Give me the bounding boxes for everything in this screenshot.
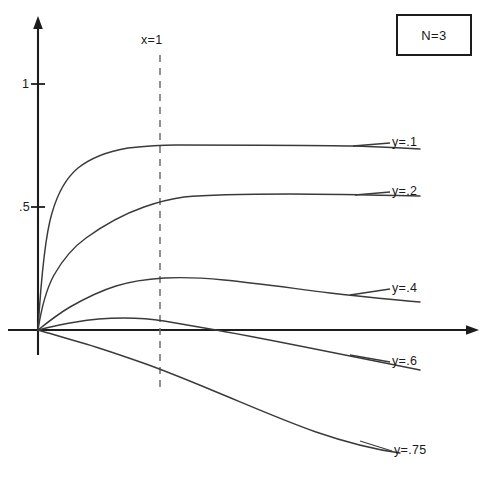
leader-y-0-1 <box>353 143 390 146</box>
x-equals-1-label: x=1 <box>141 33 162 47</box>
curve-label-y-0-2: y=.2 <box>392 184 417 198</box>
curve-label-y-0-6: y=.6 <box>392 354 417 368</box>
curve-y-0-6 <box>38 318 420 370</box>
x-axis <box>8 325 479 335</box>
leader-y-0-4 <box>350 289 390 295</box>
leader-y-0-6 <box>350 355 390 362</box>
y-tick-label-1: 1 <box>22 77 29 91</box>
curve-y-0-75 <box>38 330 400 453</box>
curve-label-y-0-1: y=.1 <box>392 135 417 149</box>
curve-label-y-0-75: y=.75 <box>394 443 426 457</box>
annotation-box-n-label: N=3 <box>421 28 446 43</box>
plot-canvas <box>0 0 493 485</box>
y-tick-label-point5: .5 <box>19 200 30 214</box>
chart-figure: 1 .5 x=1 y=.1 y=.2 y=.4 y=.6 y=.75 N=3 <box>0 0 493 485</box>
y-axis-arrowhead <box>33 16 43 29</box>
curve-label-y-0-4: y=.4 <box>392 281 417 295</box>
x-axis-arrowhead <box>466 325 479 335</box>
curve-y-0-4 <box>38 278 420 330</box>
curve-y-0-2 <box>38 194 420 330</box>
annotation-box-n: N=3 <box>396 14 472 56</box>
curve-y-0-1 <box>38 145 420 330</box>
